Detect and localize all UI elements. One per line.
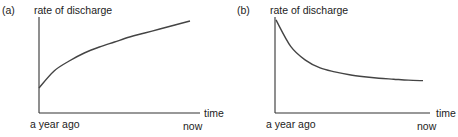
- figure: (a) rate of discharge time a year ago no…: [0, 0, 458, 137]
- panel-b-xtick-start: a year ago: [266, 118, 316, 130]
- panel-a-curve: [39, 21, 190, 88]
- panel-b-xtick-end: now: [417, 120, 437, 132]
- panel-a: (a) rate of discharge time a year ago no…: [2, 4, 224, 132]
- panel-b-ylabel: rate of discharge: [270, 4, 348, 16]
- panel-a-ylabel: rate of discharge: [34, 4, 112, 16]
- panel-a-xlabel: time: [204, 107, 224, 119]
- panel-a-xtick-end: now: [183, 120, 203, 132]
- panel-a-label: (a): [2, 4, 15, 16]
- panel-b-xlabel: time: [436, 107, 456, 119]
- panel-b: (b) rate of discharge time a year ago no…: [237, 4, 456, 132]
- panel-b-label: (b): [237, 4, 250, 16]
- panel-a-xtick-start: a year ago: [30, 118, 80, 130]
- panel-b-curve: [276, 20, 423, 81]
